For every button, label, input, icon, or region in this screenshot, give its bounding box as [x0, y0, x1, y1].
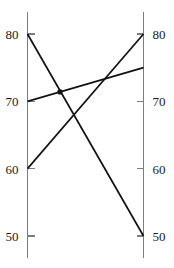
right-axis-label-70: 70: [153, 95, 166, 108]
series-3: [28, 68, 144, 102]
right-axis-label-50: 50: [153, 230, 166, 243]
markers-group: [57, 89, 62, 94]
series-2: [28, 34, 144, 169]
crossing-node: [57, 89, 62, 94]
right-axis-label-80: 80: [153, 28, 166, 41]
left-axis-label-70: 70: [6, 95, 19, 108]
left-axis-label-60: 60: [6, 162, 19, 175]
series-group: [28, 34, 144, 236]
left-axis-label-80: 80: [6, 28, 19, 41]
left-axis-label-50: 50: [6, 230, 19, 243]
chart-canvas: [0, 0, 174, 268]
slope-chart: 80706050 80706050: [0, 0, 174, 268]
series-1: [28, 34, 144, 236]
right-axis-label-60: 60: [153, 162, 166, 175]
